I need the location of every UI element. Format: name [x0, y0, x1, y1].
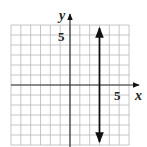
coordinate-plane: y x 5 5 — [0, 0, 147, 147]
x-axis-label: x — [134, 88, 142, 103]
axes — [11, 14, 139, 147]
x-tick-label-5: 5 — [114, 88, 121, 103]
y-tick-label-5: 5 — [58, 29, 65, 44]
y-axis-label: y — [57, 8, 66, 23]
